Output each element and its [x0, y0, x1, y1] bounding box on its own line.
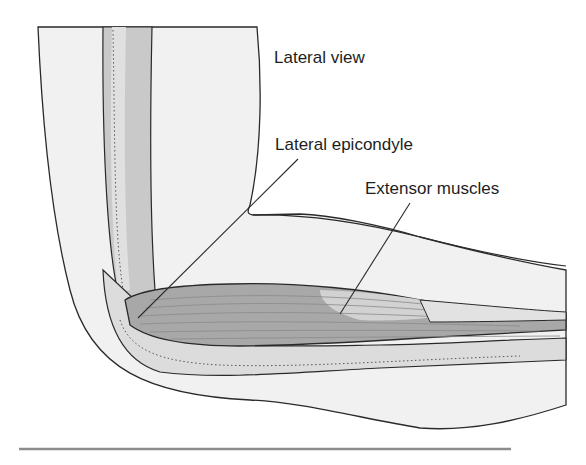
- label-lateral-view: Lateral view: [274, 49, 365, 66]
- elbow-diagram: Lateral view Lateral epicondyle Extensor…: [0, 0, 586, 465]
- label-lateral-epicondyle: Lateral epicondyle: [275, 136, 413, 153]
- elbow-illustration: [0, 0, 586, 465]
- label-extensor-muscles: Extensor muscles: [365, 180, 499, 197]
